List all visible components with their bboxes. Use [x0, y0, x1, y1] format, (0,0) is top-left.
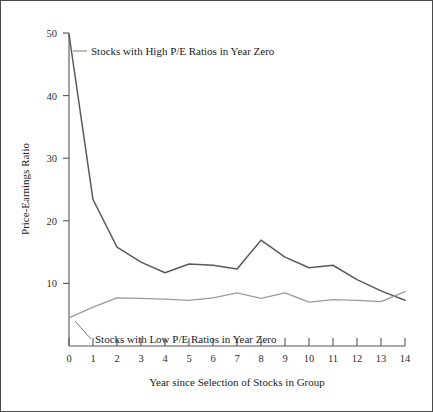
low-pe-annotation-label: Stocks with Low P/E Ratios in Year Zero — [95, 333, 277, 345]
x-tick-label-3: 3 — [138, 353, 143, 364]
y-tick-label-50: 50 — [47, 28, 58, 39]
x-tick-label-14: 14 — [400, 353, 411, 364]
y-axis-ticks — [63, 33, 69, 283]
x-tick-label-7: 7 — [234, 353, 239, 364]
x-tick-label-9: 9 — [282, 353, 287, 364]
x-tick-label-0: 0 — [66, 353, 71, 364]
x-axis-title: Year since Selection of Stocks in Group — [149, 376, 325, 388]
y-tick-label-40: 40 — [47, 91, 58, 102]
x-tick-label-1: 1 — [90, 353, 95, 364]
high-pe-annotation-label: Stocks with High P/E Ratios in Year Zero — [91, 45, 275, 57]
series-line-low-pe — [69, 292, 405, 318]
y-axis-title: Price-Earnings Ratio — [19, 143, 31, 235]
x-tick-label-11: 11 — [328, 353, 338, 364]
x-tick-label-12: 12 — [352, 353, 363, 364]
x-axis-tick-labels: 0 1 2 3 4 5 6 7 8 9 10 11 12 13 14 — [66, 353, 411, 364]
figure-inner-panel: 50 40 30 20 10 — [7, 7, 426, 405]
y-tick-label-10: 10 — [47, 278, 58, 289]
x-tick-label-8: 8 — [258, 353, 263, 364]
figure-frame: 50 40 30 20 10 — [0, 0, 433, 412]
series-line-high-pe — [69, 34, 405, 300]
x-tick-label-4: 4 — [162, 353, 168, 364]
price-earnings-ratio-line-chart: 50 40 30 20 10 — [7, 7, 428, 407]
y-axis-tick-labels: 50 40 30 20 10 — [47, 28, 58, 289]
x-tick-label-5: 5 — [186, 353, 191, 364]
x-tick-label-6: 6 — [210, 353, 215, 364]
low-pe-leader-line — [75, 321, 91, 339]
x-tick-label-10: 10 — [304, 353, 315, 364]
x-tick-label-2: 2 — [114, 353, 119, 364]
x-tick-label-13: 13 — [376, 353, 387, 364]
y-tick-label-30: 30 — [47, 153, 58, 164]
y-tick-label-20: 20 — [47, 216, 58, 227]
